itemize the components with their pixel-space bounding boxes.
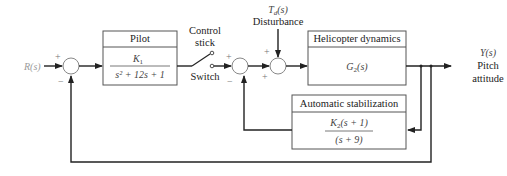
output-caption-line1: Pitch [477, 60, 499, 71]
sum3-top-plus-sign: + [264, 46, 270, 57]
disturbance-caption: Disturbance [253, 16, 304, 27]
stabilization-to-sum2-path [244, 76, 292, 130]
helicopter-title: Helicopter dynamics [313, 33, 400, 44]
summing-junction-2 [232, 58, 248, 74]
sum1-minus-sign: − [58, 76, 64, 87]
input-label: R(s) [23, 61, 41, 73]
pilot-block: Pilot K1 s² + 12s + 1 [103, 31, 177, 85]
switch-label-line1: Control [189, 25, 221, 36]
switch-label-bottom: Switch [190, 71, 220, 82]
summing-junction-3 [270, 58, 286, 74]
output-caption-line2: attitude [472, 73, 504, 84]
helicopter-pitch-control-diagram: R(s) + − Pilot K1 s² + 12s + 1 Control s… [0, 0, 507, 176]
sum2-minus-sign: − [227, 76, 233, 87]
summing-junction-1 [63, 58, 79, 74]
helicopter-dynamics-block: Helicopter dynamics G2(s) [308, 31, 406, 85]
pilot-title: Pilot [130, 33, 150, 44]
pilot-denominator: s² + 12s + 1 [115, 69, 164, 80]
stabilization-denominator: (s + 9) [335, 134, 363, 146]
switch-label-line2: stick [195, 37, 216, 48]
output-label: Y(s) [480, 47, 497, 59]
sum1-plus-sign: + [55, 51, 61, 62]
automatic-stabilization-block: Automatic stabilization K2(s + 1) (s + 9… [292, 95, 406, 149]
sum3-left-plus-sign: + [262, 71, 268, 82]
control-stick-switch: Control stick Switch [177, 25, 221, 82]
stabilization-title: Automatic stabilization [300, 98, 399, 109]
inner-feedback-path [408, 66, 421, 130]
sum2-plus-sign: + [226, 51, 232, 62]
